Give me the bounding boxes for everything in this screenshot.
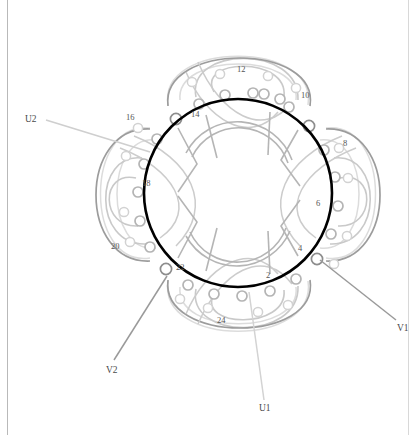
slot-label-18: 18 xyxy=(142,179,151,188)
slot-label-14: 14 xyxy=(191,110,200,119)
stator-winding-diagram xyxy=(0,0,417,435)
terminal-label-v1: V1 xyxy=(397,324,409,334)
pole-shoe-arcs xyxy=(186,122,292,266)
figure-canvas: 2 4 6 8 10 12 14 16 18 20 22 24 U1 U2 V1… xyxy=(0,0,417,435)
slot-label-10: 10 xyxy=(301,91,310,100)
v1-leader-line xyxy=(320,260,396,320)
slot-label-2: 2 xyxy=(266,271,270,280)
coil-crossovers xyxy=(120,62,356,324)
slot-node-ring xyxy=(133,88,343,301)
slot-label-4: 4 xyxy=(298,244,302,253)
inner-node-ring xyxy=(119,69,352,316)
slot-label-8: 8 xyxy=(343,139,347,148)
v2-leader-line xyxy=(114,276,167,360)
terminal-label-v2: V2 xyxy=(106,366,118,376)
slot-label-24: 24 xyxy=(217,316,226,325)
slot-label-12: 12 xyxy=(237,65,246,74)
slot-label-20: 20 xyxy=(111,242,120,251)
terminal-label-u2: U2 xyxy=(25,115,37,125)
slot-label-6: 6 xyxy=(316,199,320,208)
slot-label-22: 22 xyxy=(176,263,185,272)
slot-label-16: 16 xyxy=(126,113,135,122)
terminal-label-u1: U1 xyxy=(259,404,271,414)
